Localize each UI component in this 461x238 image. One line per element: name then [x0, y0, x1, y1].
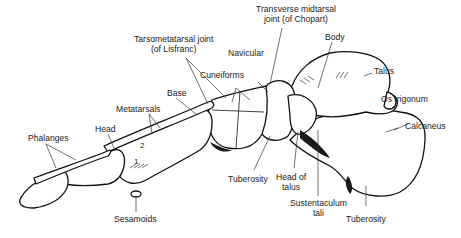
label-tarsometatarsal-joint: Tarsometatarsal joint (of Lisfranc): [134, 34, 213, 54]
label-calcaneus: Calcaneus: [405, 121, 446, 131]
label-talus: Talus: [374, 66, 394, 76]
label-line-2: tali: [290, 208, 347, 218]
label-line-1: Sustentaculum: [290, 198, 347, 208]
label-navicular-tuberosity: Tuberosity: [228, 174, 268, 184]
label-transverse-midtarsal-joint: Transverse midtarsal joint (of Chopart): [256, 4, 336, 24]
label-line-2: talus: [276, 182, 306, 192]
label-calcaneal-tuberosity: Tuberosity: [346, 214, 386, 224]
metatarsal-number-2: 2: [140, 141, 145, 150]
foot-bone-diagram: 1 2: [0, 0, 461, 238]
label-sustentaculum-tali: Sustentaculum tali: [290, 198, 347, 218]
label-base: Base: [167, 88, 187, 98]
cuneiform-bones: [208, 86, 267, 149]
sesamoid-bone: [131, 191, 141, 197]
label-line-2: joint (of Chopart): [256, 14, 336, 24]
label-metatarsals: Metatarsals: [116, 104, 160, 114]
label-navicular: Navicular: [228, 48, 264, 58]
label-line-1: Transverse midtarsal: [256, 4, 336, 14]
label-line-2: (of Lisfranc): [134, 44, 213, 54]
label-sesamoids: Sesamoids: [114, 214, 157, 224]
label-phalanges: Phalanges: [28, 133, 69, 143]
label-line-1: Tarsometatarsal joint: [134, 34, 213, 44]
label-body: Body: [325, 32, 345, 42]
label-cuneiforms: Cuneiforms: [200, 70, 244, 80]
foot-illustration: 1 2: [0, 0, 461, 238]
label-head-of-talus: Head of talus: [276, 172, 306, 192]
label-os-trigonum: Os trigonum: [381, 94, 428, 104]
label-line-1: Head of: [276, 172, 306, 182]
label-head: Head: [95, 124, 116, 134]
metatarsal-number-1: 1: [134, 157, 139, 166]
